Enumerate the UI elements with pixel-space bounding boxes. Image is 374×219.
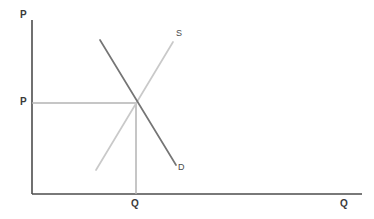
supply-curve-line bbox=[96, 42, 173, 170]
supply-demand-chart: P P Q Q S D bbox=[0, 0, 374, 219]
chart-canvas bbox=[0, 0, 374, 219]
x-axis-title: Q bbox=[340, 199, 348, 209]
equilibrium-price-label: P bbox=[20, 97, 27, 107]
y-axis-title: P bbox=[20, 10, 27, 20]
supply-curve-label: S bbox=[176, 29, 182, 38]
demand-curve-label: D bbox=[178, 163, 185, 172]
equilibrium-quantity-label: Q bbox=[131, 199, 139, 209]
